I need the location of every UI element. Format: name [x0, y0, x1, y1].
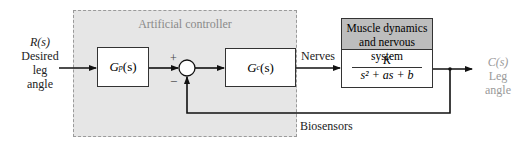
sum-plus: + — [170, 51, 177, 66]
gp-arg: (s) — [123, 59, 137, 75]
plant-denominator: s² + as + b — [360, 68, 413, 83]
input-desc-3: angle — [20, 77, 60, 91]
output-symbol: C(s) — [478, 55, 516, 69]
block-plant: Muscle dynamics and nervous system K s² … — [341, 18, 433, 88]
output-desc-2: angle — [478, 83, 516, 97]
plant-title: Muscle dynamics and nervous system — [342, 19, 432, 50]
gc-arg: (s) — [260, 60, 274, 76]
gc-base: G — [247, 60, 256, 76]
plant-numerator: K — [352, 53, 422, 68]
sum-minus: − — [170, 74, 177, 90]
gp-base: G — [109, 59, 118, 75]
plant-transfer-function: K s² + as + b — [342, 50, 432, 83]
input-symbol: R(s) — [20, 35, 60, 49]
plant-title-1: Muscle dynamics — [342, 21, 432, 35]
input-desc-1: Desired — [20, 49, 60, 63]
output-label: C(s) Leg angle — [478, 55, 516, 97]
input-label: R(s) Desired leg angle — [20, 35, 60, 91]
block-gp: Gp(s) — [97, 47, 149, 87]
output-desc-1: Leg — [478, 69, 516, 83]
input-desc-2: leg — [20, 63, 60, 77]
biosensors-label: Biosensors — [300, 119, 353, 133]
nerves-label: Nerves — [301, 49, 335, 63]
block-gc: Gc(s) — [225, 48, 296, 87]
